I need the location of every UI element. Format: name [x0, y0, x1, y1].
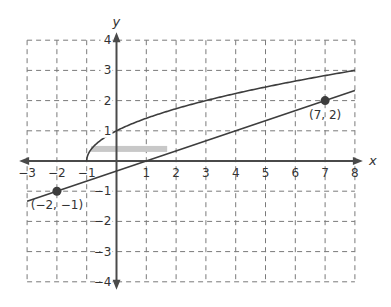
x-tick-label: 4: [232, 166, 240, 180]
y-axis-arrow-up-icon: [113, 32, 121, 42]
x-tick-label: 8: [351, 166, 359, 180]
x-tick-label: 3: [202, 166, 210, 180]
points: (−2, −1)(7, 2): [31, 96, 342, 212]
y-tick-label: 1: [104, 124, 112, 138]
x-tick-label: 6: [291, 166, 299, 180]
x-tick-label: 5: [262, 166, 270, 180]
series: [27, 70, 355, 201]
point-label: (7, 2): [309, 108, 341, 122]
x-axis-arrow-left-icon: [19, 157, 29, 165]
data-point-marker: [321, 96, 330, 105]
y-tick-label: 3: [104, 63, 112, 77]
x-tick-label: −2: [48, 166, 66, 180]
x-tick-label: 7: [321, 166, 329, 180]
linear-line: [27, 91, 355, 202]
point-label: (−2, −1): [31, 198, 83, 212]
x-axis-label: x: [368, 153, 377, 168]
y-tick-label: −2: [94, 214, 112, 228]
y-tick-label: 4: [104, 33, 112, 47]
x-tick-label: 1: [142, 166, 150, 180]
x-tick-label: −3: [18, 166, 36, 180]
highlight-bar: [91, 146, 167, 152]
y-tick-label: −3: [94, 245, 112, 259]
data-point-marker: [52, 187, 61, 196]
function-graph: −3−2−1123456784321−1−2−3−4 x y (−2, −1)(…: [0, 0, 391, 307]
x-axis-arrow-right-icon: [353, 157, 363, 165]
y-tick-label: 2: [104, 94, 112, 108]
x-tick-label: 2: [172, 166, 180, 180]
x-tick-label: −1: [78, 166, 96, 180]
y-tick-label: −1: [94, 184, 112, 198]
y-tick-label: −4: [94, 275, 112, 289]
y-axis-label: y: [112, 14, 121, 29]
y-axis-arrow-down-icon: [113, 280, 121, 290]
